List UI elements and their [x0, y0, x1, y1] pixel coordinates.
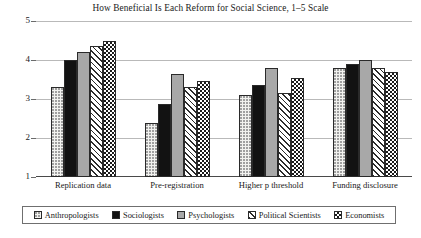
bar-groups [36, 21, 412, 177]
y-tick-label-3: 3 [14, 93, 30, 103]
bar[interactable] [64, 60, 77, 177]
legend-label: Economists [345, 211, 384, 220]
legend-swatch-icon [248, 211, 256, 219]
bars [36, 21, 130, 177]
legend-item[interactable]: Psychologists [177, 211, 234, 220]
x-axis-label: Higher p threshold [224, 180, 318, 190]
bar[interactable] [252, 85, 265, 177]
legend-label: Anthropologists [45, 211, 99, 220]
bar-group [36, 21, 130, 177]
y-tick-label-2: 2 [14, 132, 30, 142]
bar[interactable] [77, 52, 90, 177]
bar[interactable] [359, 60, 372, 177]
bar[interactable] [333, 68, 346, 177]
bar-group [224, 21, 318, 177]
bar[interactable] [385, 72, 398, 177]
bar[interactable] [158, 104, 171, 177]
chart-figure: How Beneficial Is Each Reform for Social… [0, 0, 421, 238]
legend-swatch-icon [334, 211, 342, 219]
y-tick-label-5: 5 [14, 15, 30, 25]
bar[interactable] [197, 81, 210, 177]
y-tick-mark-1 [31, 177, 36, 178]
x-axis-label: Replication data [36, 180, 130, 190]
legend-label: Political Scientists [259, 211, 321, 220]
bars [224, 21, 318, 177]
bar[interactable] [51, 87, 64, 177]
legend-label: Sociologists [123, 211, 164, 220]
x-axis-label: Funding disclosure [318, 180, 412, 190]
bar[interactable] [278, 93, 291, 177]
y-tick-label-1: 1 [14, 171, 30, 181]
bar[interactable] [372, 68, 385, 177]
bars [130, 21, 224, 177]
bar[interactable] [346, 64, 359, 177]
y-tick-label-4: 4 [14, 54, 30, 64]
bar[interactable] [291, 78, 304, 177]
legend-swatch-icon [34, 211, 42, 219]
bars [318, 21, 412, 177]
chart-title: How Beneficial Is Each Reform for Social… [0, 3, 421, 13]
bar[interactable] [265, 68, 278, 177]
bar[interactable] [103, 41, 116, 178]
legend-item[interactable]: Sociologists [112, 211, 164, 220]
bar[interactable] [171, 74, 184, 177]
bar-group [130, 21, 224, 177]
bar[interactable] [145, 123, 158, 177]
bar[interactable] [90, 46, 103, 177]
legend-item[interactable]: Anthropologists [34, 211, 99, 220]
legend-item[interactable]: Political Scientists [248, 211, 321, 220]
bar[interactable] [184, 87, 197, 177]
legend-swatch-icon [177, 211, 185, 219]
legend-swatch-icon [112, 211, 120, 219]
bar-group [318, 21, 412, 177]
legend-item[interactable]: Economists [334, 211, 384, 220]
x-axis-labels: Replication dataPre-registrationHigher p… [36, 180, 412, 190]
chart-legend: AnthropologistsSociologistsPsychologists… [22, 206, 396, 224]
legend-label: Psychologists [188, 211, 234, 220]
x-axis-label: Pre-registration [130, 180, 224, 190]
bar[interactable] [239, 95, 252, 177]
